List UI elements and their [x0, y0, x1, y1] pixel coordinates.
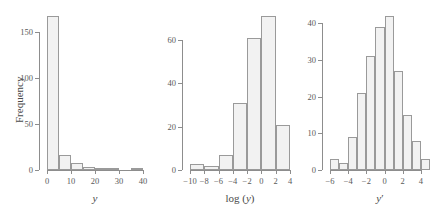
x-axis-tick	[47, 170, 48, 174]
x-axis-tick	[190, 170, 191, 174]
histogram-bar	[357, 93, 366, 170]
x-axis-tick-label: 4	[419, 177, 423, 186]
x-axis-tick-label: 10	[67, 177, 76, 186]
y-axis-tick	[178, 127, 182, 128]
x-axis-title: y	[93, 193, 98, 204]
y-axis-tick-label: 0	[152, 166, 176, 175]
x-axis-tick-label: −8	[200, 177, 209, 186]
x-axis-tick	[143, 170, 144, 174]
histogram-bar	[375, 27, 384, 170]
histogram-y-panel: 010203040050100150 Frequency y	[0, 0, 150, 215]
histogram-bar	[261, 16, 275, 170]
y-axis-tick	[318, 170, 322, 171]
y-axis-tick	[178, 83, 182, 84]
y-axis-tick	[35, 78, 39, 79]
y-axis-tick-label: 0	[9, 166, 33, 175]
x-axis-tick	[233, 170, 234, 174]
histogram-log-y-panel: −10−8−6−4−20240204060 log (y)	[150, 0, 298, 215]
plot-area-y: 010203040050100150 Frequency y	[0, 0, 150, 215]
y-axis-line	[322, 23, 323, 170]
histogram-bar	[394, 71, 403, 170]
x-axis-tick-label: −2	[243, 177, 252, 186]
y-axis-tick	[318, 60, 322, 61]
y-axis-tick-label: 40	[292, 19, 316, 28]
x-axis-tick-label: −2	[362, 177, 371, 186]
x-axis-tick-label: −6	[214, 177, 223, 186]
histogram-bar	[403, 115, 412, 170]
x-axis-tick-label: 2	[401, 177, 405, 186]
x-axis-title-log-y: log (y)	[225, 193, 254, 204]
histogram-bar	[219, 155, 233, 170]
x-axis-tick	[261, 170, 262, 174]
y-axis-tick	[178, 170, 182, 171]
y-axis-tick-label: 150	[9, 28, 33, 37]
y-axis-tick	[178, 40, 182, 41]
x-axis-tick-label: −6	[325, 177, 334, 186]
y-axis-line	[39, 32, 40, 170]
y-axis-tick-label: 20	[292, 92, 316, 101]
y-axis-tick	[35, 170, 39, 171]
y-axis-tick-label: 30	[292, 56, 316, 65]
x-axis-tick	[421, 170, 422, 174]
histogram-bar	[348, 137, 357, 170]
histogram-bar	[385, 16, 394, 170]
y-axis-tick-label: 20	[152, 122, 176, 131]
y-axis-tick	[318, 97, 322, 98]
x-axis-tick	[290, 170, 291, 174]
bars-y-prime	[330, 12, 430, 170]
y-axis-tick-label: 10	[292, 129, 316, 138]
y-axis-line	[182, 40, 183, 170]
x-axis-tick-label: 0	[382, 177, 386, 186]
x-axis-tick	[385, 170, 386, 174]
y-axis-tick-label: 40	[152, 79, 176, 88]
x-axis-tick	[95, 170, 96, 174]
x-axis-tick	[403, 170, 404, 174]
plot-area-y-prime: −6−4−2024010203040 y′	[298, 0, 446, 215]
histogram-bar	[47, 16, 59, 170]
x-axis-tick-label: −4	[344, 177, 353, 186]
x-axis-tick	[204, 170, 205, 174]
plot-area-log-y: −10−8−6−4−20240204060 log (y)	[150, 0, 298, 215]
y-axis-tick	[318, 23, 322, 24]
histogram-bar	[330, 159, 339, 170]
x-axis-tick-label: 40	[139, 177, 148, 186]
histogram-figure: 010203040050100150 Frequency y −10−8−6−4…	[0, 0, 446, 215]
x-axis-tick-label: 2	[274, 177, 278, 186]
histogram-bar	[276, 125, 290, 170]
bars-log-y	[190, 12, 290, 170]
x-axis-tick-label: 0	[259, 177, 263, 186]
x-axis-tick	[366, 170, 367, 174]
x-axis-tick-label: 0	[45, 177, 49, 186]
y-axis-tick	[35, 124, 39, 125]
histogram-bar	[71, 163, 83, 170]
histogram-bar	[233, 103, 247, 170]
x-axis-tick	[276, 170, 277, 174]
histogram-bar	[339, 163, 348, 170]
histogram-bar	[247, 38, 261, 170]
x-axis-tick-label: 4	[288, 177, 292, 186]
x-axis-tick	[330, 170, 331, 174]
bars-y	[47, 12, 143, 170]
y-axis-title: Frequency	[14, 77, 25, 123]
x-axis-tick	[119, 170, 120, 174]
histogram-bar	[421, 159, 430, 170]
x-axis-tick	[219, 170, 220, 174]
histogram-bar	[59, 155, 71, 170]
x-axis-tick-label: 20	[91, 177, 100, 186]
x-axis-tick-label: −4	[228, 177, 237, 186]
x-axis-tick	[71, 170, 72, 174]
x-axis-title-y-prime: y′	[376, 193, 383, 204]
y-axis-tick	[35, 32, 39, 33]
x-axis-line	[330, 170, 421, 171]
x-axis-tick-label: 30	[115, 177, 124, 186]
histogram-y-prime-panel: −6−4−2024010203040 y′	[298, 0, 446, 215]
y-axis-tick-label: 0	[292, 166, 316, 175]
x-axis-tick	[348, 170, 349, 174]
x-axis-tick-label: −10	[183, 177, 196, 186]
histogram-bar	[412, 141, 421, 170]
x-axis-tick	[247, 170, 248, 174]
y-axis-tick-label: 60	[152, 36, 176, 45]
y-axis-tick	[318, 133, 322, 134]
histogram-bar	[366, 56, 375, 170]
